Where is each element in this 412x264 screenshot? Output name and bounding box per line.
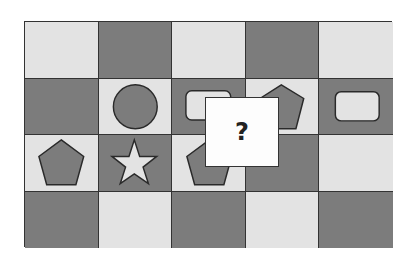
cell-r2-c1 [25,79,99,136]
cell-r4-c3 [172,192,246,249]
circle-icon [99,79,172,135]
cell-r3-c1 [25,135,99,192]
cell-r3-c2 [99,135,173,192]
question-mark: ? [235,118,249,146]
pentagon-icon [25,135,98,191]
cell-r1-c4 [246,22,320,79]
cell-r4-c5 [319,192,393,249]
cell-r3-c5 [319,135,393,192]
cell-r4-c1 [25,192,99,249]
cell-r4-c2 [99,192,173,249]
question-box[interactable]: ? [205,97,279,167]
cell-r1-c1 [25,22,99,79]
cell-r1-c2 [99,22,173,79]
cell-r2-c2 [99,79,173,136]
rounded-rectangle-icon [319,79,393,135]
star-icon [99,135,172,191]
cell-r4-c4 [246,192,320,249]
cell-r1-c5 [319,22,393,79]
cell-r1-c3 [172,22,246,79]
cell-r2-c5 [319,79,393,136]
